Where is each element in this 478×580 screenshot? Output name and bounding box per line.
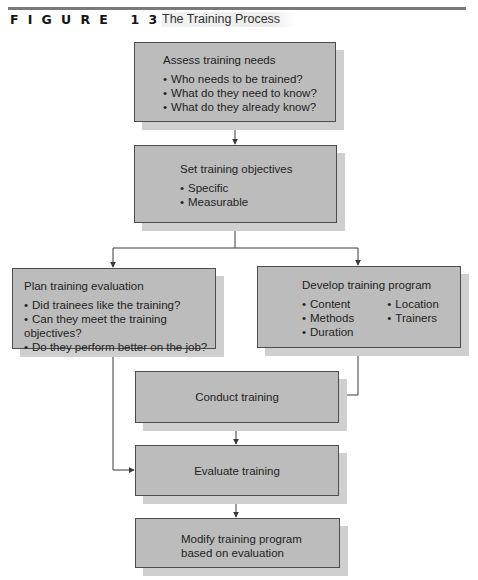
bullet-item: Content [302,297,375,311]
node-develop-training-program: Develop training program Content Methods… [257,266,461,348]
bullet-item: Trainers [387,311,460,325]
bullet-list: Specific Measurable [180,181,336,209]
node-heading: Assess training needs [163,53,335,67]
node-heading-line2: based on evaluation [181,546,339,560]
bullet-item: Who needs to be trained? [163,72,335,86]
node-conduct-training: Conduct training [135,371,339,423]
node-heading: Conduct training [195,390,279,404]
bullet-item: Methods [302,311,375,325]
edge-objectives-develop [235,248,358,265]
node-set-training-objectives: Set training objectives Specific Measura… [134,145,337,223]
bullet-item: Measurable [180,195,336,209]
bullet-list-left: Content Methods Duration [302,297,375,339]
node-assess-training-needs: Assess training needs Who needs to be tr… [134,42,336,122]
node-heading: Set training objectives [180,162,336,176]
bullet-item: Can they meet the training objectives? [24,312,215,340]
bullet-list: Did trainees like the training? Can they… [24,298,215,354]
node-heading: Modify training program [181,532,339,546]
bullet-item: What do they already know? [163,100,335,114]
bullet-item: Location [387,297,460,311]
bullet-list: Who needs to be trained? What do they ne… [163,72,335,114]
bullet-item: What do they need to know? [163,86,335,100]
edge-develop-conduct [339,347,358,395]
bullet-item: Did trainees like the training? [24,298,215,312]
bullet-item: Do they perform better on the job? [24,340,215,354]
bullet-list-right: Location Trainers [387,297,460,339]
node-modify-training-program: Modify training program based on evaluat… [135,518,340,568]
node-heading: Develop training program [302,278,460,292]
bullet-item: Specific [180,181,336,195]
edge-objectives-plan [113,248,235,267]
bullet-grid: Content Methods Duration Location Traine… [302,297,460,339]
node-evaluate-training: Evaluate training [135,445,339,496]
node-heading: Evaluate training [194,464,280,478]
node-heading: Plan training evaluation [24,279,215,293]
edge-plan-evaluate [113,348,134,470]
node-plan-training-evaluation: Plan training evaluation Did trainees li… [12,268,216,349]
bullet-item: Duration [302,325,375,339]
